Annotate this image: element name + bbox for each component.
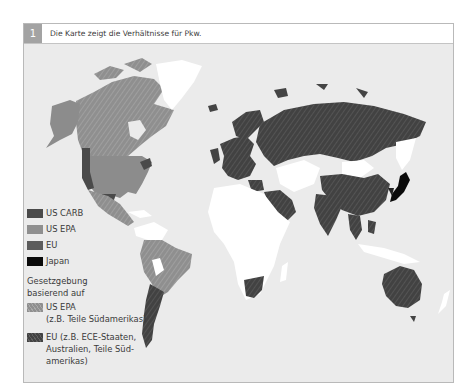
legend-item-eu: EU: [27, 237, 147, 253]
legend-note-eu-line3: amerikas): [27, 355, 147, 367]
figure-number: 1: [24, 24, 42, 43]
legend-item-us-epa: US EPA: [27, 221, 147, 237]
legend-note-us-epa: (z.B. Teile Südamerikas): [27, 313, 147, 325]
legend-item-us-carb: US CARB: [27, 205, 147, 221]
figure-header: 1 Die Karte zeigt die Verhältnisse für P…: [24, 24, 453, 44]
legend-item-based-eu: EU (z.B. ECE-Staaten,: [27, 331, 147, 343]
swatch-hatched-eu: [27, 333, 43, 342]
legend-item-based-us-epa: US EPA: [27, 301, 147, 313]
legend-heading: Gesetzgebung basierend auf: [27, 275, 147, 299]
swatch-hatched-us-epa: [27, 303, 43, 312]
map-legend: US CARB US EPA EU Japan Gesetzgebung bas…: [27, 205, 147, 367]
swatch-us-epa: [27, 225, 43, 234]
swatch-eu: [27, 241, 43, 250]
swatch-japan: [27, 257, 43, 266]
figure-caption: Die Karte zeigt die Verhältnisse für Pkw…: [50, 24, 201, 43]
figure-frame: 1 Die Karte zeigt die Verhältnisse für P…: [23, 23, 454, 383]
legend-note-eu-line2: Australien, Teile Süd-: [27, 343, 147, 355]
legend-item-japan: Japan: [27, 253, 147, 269]
swatch-us-carb: [27, 209, 43, 218]
